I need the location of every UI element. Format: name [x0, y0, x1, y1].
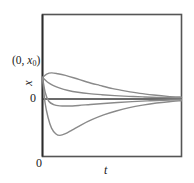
solution-curves-figure: (0, x0) x 0 0 t	[0, 0, 194, 183]
initial-point-prefix: (0,	[12, 54, 27, 66]
x-axis-origin-tick-label: 0	[36, 157, 42, 169]
y-axis-zero-tick-label: 0	[30, 92, 36, 104]
initial-point-label: (0, x0)	[12, 55, 40, 68]
y-axis-label: x	[22, 80, 34, 85]
initial-point-suffix: )	[36, 54, 40, 66]
x-axis-label: t	[104, 164, 107, 176]
